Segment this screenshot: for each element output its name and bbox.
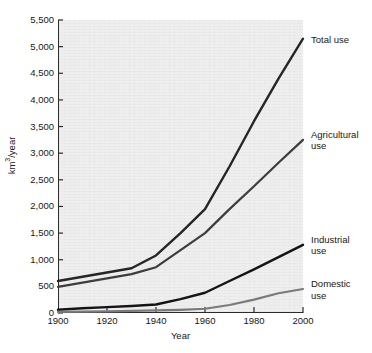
series-line-industrial-use: [58, 245, 303, 310]
series-label-line: Total use: [311, 34, 349, 46]
series-label-line: Domestic: [311, 278, 351, 290]
series-label-line: use: [311, 140, 359, 152]
series-label-line: use: [311, 245, 350, 257]
water-use-line-chart: 05001,0001,5002,0002,5003,0003,5004,0004…: [0, 0, 372, 353]
series-label-industrial-use: Industrialuse: [311, 234, 350, 257]
series-line-total-use: [58, 39, 303, 281]
series-line-agricultural-use: [58, 140, 303, 287]
series-lines: [58, 39, 303, 312]
series-label-line: Agricultural: [311, 129, 359, 141]
series-label-domestic-use: Domesticuse: [311, 278, 351, 301]
axis-tick-marks: [58, 20, 303, 313]
series-label-total-use: Total use: [311, 34, 349, 46]
series-label-agricultural-use: Agriculturaluse: [311, 129, 359, 152]
series-label-line: use: [311, 290, 351, 302]
series-label-line: Industrial: [311, 234, 350, 246]
